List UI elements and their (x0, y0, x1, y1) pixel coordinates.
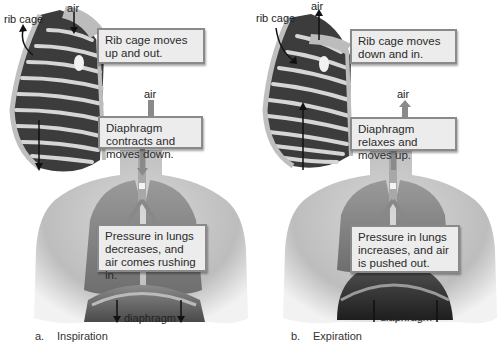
rib-cage-label: rib cage (256, 12, 295, 24)
caption-inspiration: a.Inspiration (35, 330, 108, 342)
callout-pressure: Pressure in lungs decreases, and air com… (97, 224, 207, 272)
diaphragm-label: diaphragm (124, 312, 176, 324)
panel-expiration: rib cage air air diaphragm Rib cage move… (249, 0, 498, 343)
air-mid-label: air (397, 88, 409, 100)
caption-title: Inspiration (57, 330, 108, 342)
rib-cage-label: rib cage (4, 13, 43, 25)
callout-rib-cage: Rib cage moves up and out. (97, 28, 205, 64)
caption-title: Expiration (313, 330, 362, 342)
air-top-label: air (67, 2, 79, 14)
caption-letter: a. (35, 330, 57, 342)
air-top-label: air (311, 0, 323, 12)
callout-rib-cage: Rib cage moves down and in. (350, 29, 457, 64)
panel-inspiration: rib cage air air diaphragm Rib cage move… (0, 0, 249, 343)
callout-diaphragm: Diaphragm relaxes and moves up. (350, 117, 457, 151)
diaphragm-label: diaphragm (380, 311, 432, 323)
callout-pressure: Pressure in lungs increases, and air is … (350, 225, 460, 273)
air-mid-arrow (148, 100, 154, 116)
caption-expiration: b.Expiration (291, 330, 362, 342)
caption-letter: b. (291, 330, 313, 342)
callout-diaphragm: Diaphragm contracts and moves down. (98, 116, 203, 149)
air-mid-label: air (144, 88, 156, 100)
